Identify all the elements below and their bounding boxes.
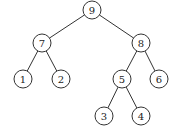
tree-edge-7-2 xyxy=(46,51,57,71)
node-label: 8 xyxy=(138,38,144,49)
tree-node-3: 3 xyxy=(95,107,113,125)
tree-node-1: 1 xyxy=(14,70,32,88)
node-label: 2 xyxy=(58,74,64,85)
tree-edge-5-3 xyxy=(108,87,118,108)
tree-edge-9-8 xyxy=(99,15,133,38)
tree-node-9: 9 xyxy=(83,1,101,19)
node-label: 3 xyxy=(101,111,107,122)
tree-edge-8-5 xyxy=(126,51,137,71)
node-label: 1 xyxy=(20,74,26,85)
node-label: 5 xyxy=(119,74,125,85)
tree-edge-8-6 xyxy=(145,51,155,71)
tree-node-8: 8 xyxy=(132,34,150,52)
tree-edge-9-7 xyxy=(50,15,85,38)
tree-edge-7-1 xyxy=(27,51,38,71)
tree-nodes: 978125634 xyxy=(14,1,168,125)
tree-node-2: 2 xyxy=(52,70,70,88)
node-label: 7 xyxy=(39,38,45,49)
tree-node-4: 4 xyxy=(132,107,150,125)
tree-edge-5-4 xyxy=(126,87,137,108)
tree-node-7: 7 xyxy=(33,34,51,52)
node-label: 9 xyxy=(89,5,95,16)
tree-node-6: 6 xyxy=(150,70,168,88)
tree-node-5: 5 xyxy=(113,70,131,88)
tree-diagram: 978125634 xyxy=(0,0,174,131)
tree-edges xyxy=(27,15,155,108)
node-label: 6 xyxy=(156,74,162,85)
node-label: 4 xyxy=(138,111,144,122)
